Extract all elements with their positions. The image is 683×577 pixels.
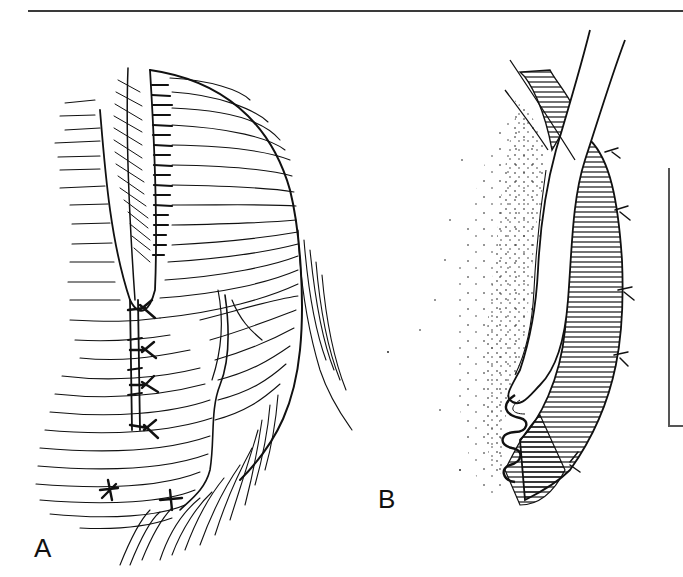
scale-bar-tick: [668, 425, 683, 427]
panel-a-drawing: [0, 0, 360, 577]
panel-b-drawing: [360, 0, 683, 577]
panel-label-a: A: [34, 535, 51, 561]
panel-b-illustration: [360, 0, 683, 577]
panel-a-illustration: [0, 0, 360, 577]
panel-label-b: B: [378, 486, 395, 512]
scale-bar: [668, 168, 670, 426]
